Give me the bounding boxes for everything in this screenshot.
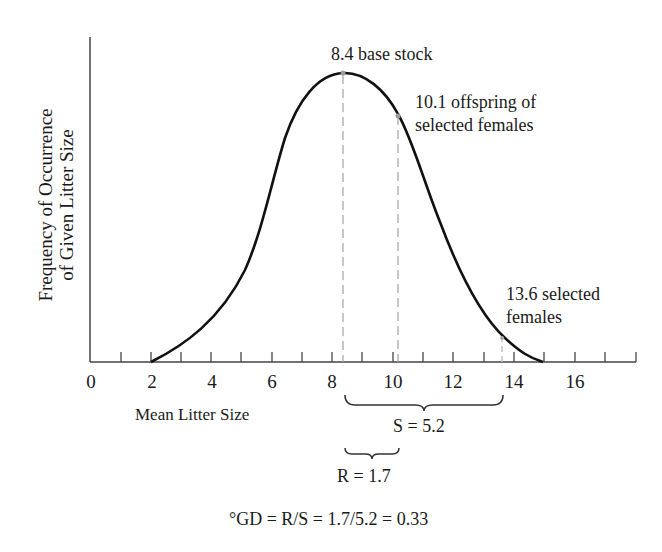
tick-label-2: 2 (147, 371, 157, 392)
tick-label-4: 4 (207, 371, 217, 392)
s-brace (345, 395, 503, 411)
r-brace (345, 448, 399, 459)
selected-annotation-line2: females (506, 307, 562, 327)
y-axis-label-line1: Frequency of Occurrence (35, 108, 56, 301)
gd-formula: °GD = R/S = 1.7/5.2 = 0.33 (229, 509, 428, 529)
tick-label-16: 16 (566, 371, 585, 392)
tick-label-8: 8 (327, 371, 337, 392)
base-stock-annotation: 8.4 base stock (331, 44, 432, 64)
s-value-label: S = 5.2 (393, 416, 445, 436)
r-value-label: R = 1.7 (337, 466, 391, 486)
tick-label-6: 6 (267, 371, 277, 392)
x-axis-label: Mean Litter Size (135, 405, 249, 424)
x-axis-ticks (121, 352, 636, 362)
tick-label-12: 12 (444, 371, 463, 392)
offspring-annotation-line1: 10.1 offspring of (415, 92, 536, 112)
selected-annotation-line1: 13.6 selected (506, 284, 600, 304)
tick-label-10: 10 (384, 371, 403, 392)
y-axis-label-line2: of Given Litter Size (56, 129, 77, 280)
offspring-point (396, 114, 401, 119)
tick-label-14: 14 (505, 371, 525, 392)
litter-size-chart: Frequency of Occurrence of Given Litter … (0, 0, 662, 552)
tick-label-0: 0 (86, 371, 96, 392)
offspring-annotation-line2: selected females (415, 115, 533, 135)
selected-point (500, 336, 504, 340)
base-stock-point (341, 71, 346, 76)
